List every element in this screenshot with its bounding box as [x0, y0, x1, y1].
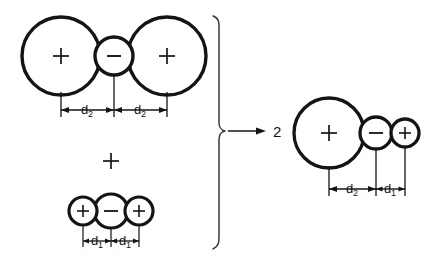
reaction-figure-canvas: d2 d2 — [0, 0, 437, 266]
dimension-label-d1-product: d1 — [384, 181, 396, 198]
reactant-top-structure: d2 d2 — [22, 17, 206, 119]
product-coefficient: 2 — [273, 123, 281, 140]
grouping-brace — [213, 16, 225, 249]
dimension-label-d1-right-bottom: d1 — [119, 233, 131, 250]
reaction-arrow-group — [228, 127, 266, 134]
reactant-bottom-structure: d1 d1 — [69, 194, 153, 250]
product-structure: d2 d1 — [294, 98, 419, 198]
dimension-label-d2-right: d2 — [134, 102, 146, 119]
reaction-arrow-head — [256, 127, 266, 134]
reaction-diagram: d2 d2 — [0, 0, 437, 266]
dimension-label-d1-left-bottom: d1 — [91, 233, 103, 250]
dimension-label-d2-product: d2 — [346, 181, 358, 198]
operator-plus-between-reactants — [103, 153, 119, 169]
dimension-label-d2-left: d2 — [81, 102, 93, 119]
